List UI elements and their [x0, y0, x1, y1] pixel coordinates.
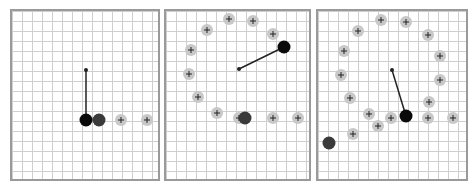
pendulum-bob: [80, 114, 93, 127]
previous-position-dot: [323, 137, 336, 150]
previous-position-dot: [93, 114, 106, 127]
pivot-point: [84, 68, 88, 72]
previous-position-dot: [239, 112, 252, 125]
pivot-point: [237, 67, 241, 71]
pendulum-arm: [239, 47, 284, 69]
panel-2: [164, 9, 311, 181]
pendulum-arm: [392, 70, 406, 116]
pendulum-bob: [278, 41, 291, 54]
panel-1: [10, 9, 160, 181]
panel-3: [316, 9, 468, 181]
pendulum-bob: [400, 110, 413, 123]
pivot-point: [390, 68, 394, 72]
